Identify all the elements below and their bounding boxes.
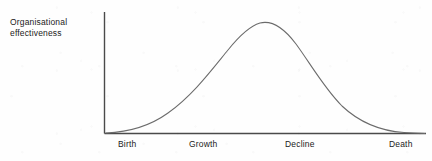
y-axis-label: Organisational effectiveness	[10, 17, 67, 39]
x-axis-tick-label-growth: Growth	[189, 139, 217, 149]
x-axis-tick-label-death: Death	[389, 139, 413, 149]
y-axis-label-line-1: Organisational	[10, 17, 67, 28]
x-axis-tick-label-birth: Birth	[118, 139, 136, 149]
x-axis-tick-label-decline: Decline	[285, 139, 315, 149]
effectiveness-curve	[106, 22, 425, 133]
lifecycle-curve-figure: Organisational effectiveness Birth Growt…	[0, 0, 432, 161]
y-axis-label-line-2: effectiveness	[10, 28, 67, 39]
